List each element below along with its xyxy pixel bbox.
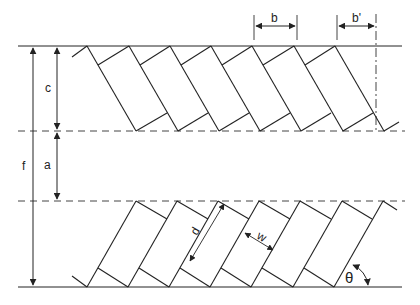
label-theta: θ — [345, 269, 353, 286]
diagram-svg: f c a b b' d w θ — [0, 0, 420, 305]
angle-theta: θ — [345, 265, 368, 286]
label-b: b — [271, 11, 278, 25]
label-w: w — [254, 228, 270, 245]
upper-fin-row — [72, 46, 399, 131]
label-d: d — [187, 225, 202, 238]
dimension-a: a — [44, 133, 57, 199]
dimension-b-prime: b' — [337, 11, 374, 40]
label-f: f — [22, 159, 26, 173]
label-a: a — [44, 158, 51, 172]
fin-geometry-diagram: f c a b b' d w θ — [0, 0, 420, 305]
dimension-d: d — [187, 204, 224, 261]
label-b-prime: b' — [352, 11, 361, 25]
dimension-f: f — [22, 48, 33, 285]
dimension-c: c — [45, 48, 57, 129]
label-c: c — [45, 81, 51, 95]
dimension-w: w — [245, 228, 273, 250]
dimension-b: b — [254, 11, 297, 40]
